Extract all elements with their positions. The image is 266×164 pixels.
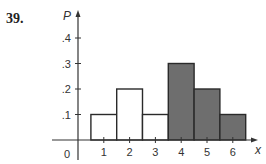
- x-tick-label: 4: [178, 146, 184, 158]
- histogram-bar: [143, 115, 169, 141]
- histogram-bar: [220, 115, 246, 141]
- histogram-bar: [91, 115, 117, 141]
- histogram-chart: .1.2.3.4 123456 P x 0: [0, 0, 266, 164]
- x-tick-label: 5: [204, 146, 210, 158]
- histogram-bar: [194, 89, 220, 140]
- origin-label: 0: [64, 148, 70, 160]
- x-axis-label: x: [254, 143, 262, 157]
- y-tick-label: .2: [62, 83, 71, 95]
- bars-group: [91, 64, 246, 141]
- histogram-bar: [168, 64, 194, 141]
- x-tick-label: 3: [152, 146, 158, 158]
- histogram-bar: [117, 89, 143, 140]
- y-axis-label: P: [63, 9, 71, 23]
- x-tick-label: 2: [127, 146, 133, 158]
- y-tick-label: .3: [62, 58, 71, 70]
- x-tick-label: 6: [230, 146, 236, 158]
- y-axis-arrow-icon: [76, 10, 81, 17]
- x-axis-arrow-icon: [251, 138, 258, 143]
- y-tick-label: .4: [62, 32, 71, 44]
- x-tick-label: 1: [101, 146, 107, 158]
- y-tick-label: .1: [62, 109, 71, 121]
